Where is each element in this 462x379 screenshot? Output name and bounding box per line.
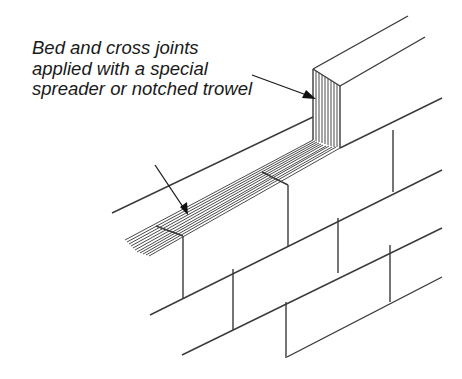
diagram-canvas: Bed and cross joints applied with a spec… [0,0,462,379]
bed-joint-hatch [125,140,340,256]
wall-outline [112,16,442,358]
cross-joint-hatch [316,71,337,147]
wall-drawing [0,0,462,379]
arrow-head-icon [302,90,316,99]
